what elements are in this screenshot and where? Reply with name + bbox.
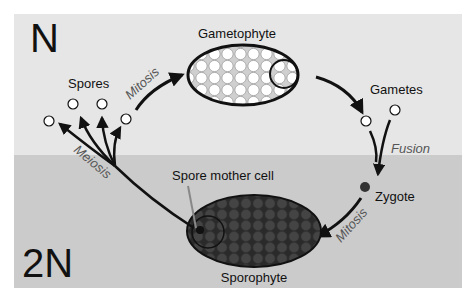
gametophyte-ellipse: [188, 45, 298, 105]
zygote-dot: [360, 182, 370, 192]
zygote-label: Zygote: [375, 189, 415, 204]
gamete-1: [361, 116, 371, 126]
life-cycle-diagram: N 2N Gametophyte Gametes Fusion Zygote M…: [0, 0, 475, 300]
spore-3: [97, 99, 107, 109]
diploid-label: 2N: [22, 241, 73, 285]
sporophyte-label: Sporophyte: [221, 270, 288, 285]
spore-4: [121, 114, 131, 124]
spore-1: [44, 116, 54, 126]
spore-mother-cell-label: Spore mother cell: [172, 168, 274, 183]
gametes-label: Gametes: [370, 82, 423, 97]
haploid-label: N: [30, 16, 59, 60]
gametophyte-label: Gametophyte: [198, 26, 276, 41]
spore-2: [68, 99, 78, 109]
gamete-2: [390, 105, 400, 115]
fusion-label: Fusion: [391, 141, 430, 156]
spores-label: Spores: [68, 76, 110, 91]
sporophyte-ellipse: [187, 195, 321, 267]
spore-mother-cell: [196, 226, 204, 234]
